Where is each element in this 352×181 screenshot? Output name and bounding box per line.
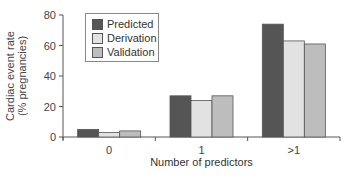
bar-chart: 02040608001>1 Cardiac event rate (% preg…	[0, 0, 352, 181]
legend-swatch-predicted	[92, 19, 103, 30]
y-tick-label: 80	[44, 9, 56, 21]
legend-swatch-derivation	[92, 33, 103, 44]
x-tick-label: 0	[106, 144, 112, 156]
x-axis-label: Number of predictors	[63, 156, 340, 168]
bar-predicted	[262, 24, 283, 137]
bar-validation	[120, 131, 141, 137]
y-axis-label: Cardiac event rate (% pregnancies)	[4, 16, 28, 136]
x-tick-label: 1	[198, 144, 204, 156]
bar-derivation	[99, 132, 120, 137]
legend: Predicted Derivation Validation	[85, 13, 159, 62]
legend-label: Predicted	[107, 18, 153, 30]
y-tick-label: 0	[50, 131, 56, 143]
legend-swatch-validation	[92, 47, 103, 58]
legend-label: Validation	[107, 46, 155, 58]
y-tick-label: 20	[44, 101, 56, 113]
bar-derivation	[191, 100, 212, 137]
y-tick-label: 60	[44, 40, 56, 52]
bar-predicted	[170, 96, 191, 137]
plot-area: 02040608001>1	[0, 0, 352, 181]
x-tick-label: >1	[288, 144, 301, 156]
bar-derivation	[283, 41, 304, 137]
bar-validation	[304, 44, 325, 137]
y-axis-label-line-2: (% pregnancies)	[16, 16, 28, 136]
bar-validation	[212, 96, 233, 137]
legend-label: Derivation	[107, 32, 157, 44]
y-tick-label: 40	[44, 70, 56, 82]
bar-predicted	[78, 129, 99, 137]
y-axis-label-line-1: Cardiac event rate	[4, 16, 16, 136]
